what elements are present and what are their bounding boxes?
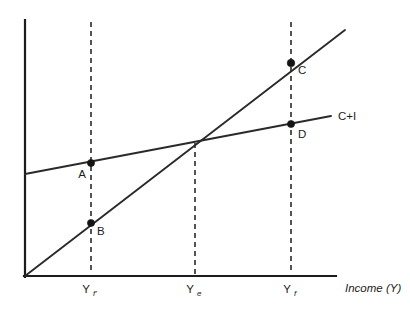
forty-five-degree-line — [25, 30, 345, 276]
series-label-c-plus-i: C+I — [338, 110, 356, 122]
point-b-marker — [87, 219, 94, 226]
point-d-label: D — [298, 128, 306, 140]
x-tick-yf-main: Y — [283, 283, 291, 295]
point-b-label: B — [97, 225, 105, 237]
chart-canvas: A B C D C+I Y f' Y e Y f Income (Y) — [0, 0, 410, 310]
x-axis-title: Income (Y) — [345, 282, 401, 294]
x-tick-ye-main: Y — [186, 283, 194, 295]
x-tick-yf-prime-main: Y — [82, 283, 90, 295]
point-d-marker — [287, 120, 294, 127]
x-tick-yf-sub: f — [294, 289, 297, 298]
point-c-label: C — [298, 64, 306, 76]
point-c-marker — [287, 59, 295, 67]
x-tick-ye-sub: e — [197, 289, 202, 298]
x-tick-yf-prime-sub: f' — [93, 289, 97, 298]
keynesian-cross-chart: A B C D C+I Y f' Y e Y f Income (Y) — [0, 0, 410, 310]
point-a-label: A — [78, 168, 86, 180]
c-plus-i-line — [25, 116, 331, 174]
point-a-marker — [87, 159, 94, 166]
